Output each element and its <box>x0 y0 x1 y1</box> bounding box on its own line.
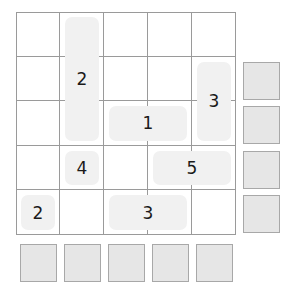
grid-cell[interactable] <box>16 101 60 146</box>
grid-cell[interactable] <box>192 190 236 235</box>
puzzle-piece[interactable]: 3 <box>109 195 187 230</box>
grid-cell[interactable] <box>148 12 192 57</box>
puzzle-piece[interactable]: 3 <box>197 62 231 141</box>
row-clue-box[interactable] <box>243 62 280 100</box>
grid-cell[interactable] <box>104 12 148 57</box>
grid-cell[interactable] <box>16 12 60 57</box>
puzzle-piece[interactable]: 5 <box>153 151 231 186</box>
grid-cell[interactable] <box>104 146 148 191</box>
puzzle-piece[interactable]: 2 <box>21 195 55 230</box>
grid-cell[interactable] <box>16 146 60 191</box>
grid-cell[interactable] <box>16 57 60 102</box>
column-clue-box[interactable] <box>108 244 145 282</box>
grid-cell[interactable] <box>148 57 192 102</box>
row-clue-box[interactable] <box>243 151 280 189</box>
grid-cell[interactable] <box>192 12 236 57</box>
grid-cell[interactable] <box>60 190 104 235</box>
puzzle-board: 2314523 <box>16 12 236 235</box>
row-clue-box[interactable] <box>243 195 280 233</box>
column-clue-box[interactable] <box>196 244 233 282</box>
column-clue-box[interactable] <box>20 244 57 282</box>
column-clue-box[interactable] <box>64 244 101 282</box>
puzzle-piece[interactable]: 1 <box>109 106 187 141</box>
column-clue-box[interactable] <box>152 244 189 282</box>
puzzle-piece[interactable]: 2 <box>65 17 99 141</box>
row-clue-box[interactable] <box>243 106 280 144</box>
puzzle-piece[interactable]: 4 <box>65 151 99 186</box>
grid-cell[interactable] <box>104 57 148 102</box>
